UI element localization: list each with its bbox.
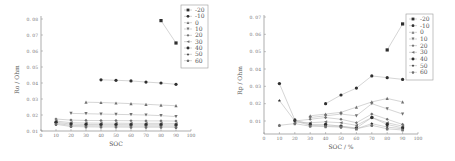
series-10 bbox=[69, 112, 177, 118]
x-tick-label: 40 bbox=[323, 136, 329, 141]
x-tick-label: 100 bbox=[414, 136, 423, 141]
legend-label: 60 bbox=[195, 57, 203, 64]
rp-chart-svg: 01020304050607080901000. 010. 020. 030. … bbox=[228, 0, 455, 161]
y-tick-label: 0. 05 bbox=[27, 65, 39, 70]
series-20 bbox=[54, 117, 177, 122]
x-tick-label: 100 bbox=[187, 133, 196, 138]
x-tick-label: 50 bbox=[113, 133, 119, 138]
series--10 bbox=[99, 78, 177, 86]
y-tick-label: 0. 02 bbox=[27, 113, 39, 118]
y-tick-label: 0. 05 bbox=[250, 49, 262, 54]
ro-chart-svg: 01020304050607080901000. 010. 020. 030. … bbox=[0, 0, 228, 161]
x-axis-title: SOC / % bbox=[328, 143, 353, 150]
series-0 bbox=[84, 101, 177, 108]
y-tick-label: 0. 06 bbox=[27, 49, 39, 54]
x-tick-label: 60 bbox=[128, 133, 134, 138]
x-axis-title: SOC bbox=[109, 140, 123, 147]
y-tick-label: 0. 04 bbox=[250, 67, 262, 72]
y-tick-label: 0. 07 bbox=[250, 15, 262, 20]
y-tick-label: 0. 03 bbox=[250, 84, 262, 89]
series--10 bbox=[324, 74, 404, 105]
y-tick-label: 0. 07 bbox=[27, 33, 39, 38]
series-10 bbox=[309, 102, 405, 119]
y-tick-label: 0. 08 bbox=[27, 17, 39, 22]
x-tick-label: 70 bbox=[369, 136, 375, 141]
x-tick-label: 20 bbox=[292, 136, 298, 141]
x-tick-label: 30 bbox=[83, 133, 89, 138]
y-tick-label: 0. 04 bbox=[27, 81, 39, 86]
y-tick-label: 0. 02 bbox=[250, 101, 262, 106]
x-tick-label: 50 bbox=[338, 136, 344, 141]
y-axis-title: Ro / Ohm bbox=[13, 65, 20, 94]
x-tick-label: 10 bbox=[53, 133, 59, 138]
legend: -20-100102030405060 bbox=[406, 14, 433, 80]
y-tick-label: 0. 01 bbox=[27, 129, 39, 134]
x-tick-label: 60 bbox=[354, 136, 360, 141]
ro-vs-soc-chart: 01020304050607080901000. 010. 020. 030. … bbox=[0, 0, 228, 161]
legend: -20-100102030405060 bbox=[181, 5, 208, 68]
series--20 bbox=[386, 22, 405, 51]
y-tick-label: 0. 01 bbox=[250, 119, 262, 124]
x-tick-label: 90 bbox=[173, 133, 179, 138]
y-axis-title: Rp / Ohm bbox=[236, 66, 244, 95]
x-tick-label: 30 bbox=[307, 136, 313, 141]
x-tick-label: 80 bbox=[158, 133, 164, 138]
x-tick-label: 70 bbox=[143, 133, 149, 138]
x-tick-label: 0 bbox=[40, 133, 43, 138]
y-tick-label: 0. 06 bbox=[250, 32, 262, 37]
x-tick-label: 20 bbox=[68, 133, 74, 138]
series--20 bbox=[159, 19, 177, 45]
x-tick-label: 40 bbox=[98, 133, 104, 138]
y-tick-label: 0. 03 bbox=[27, 97, 39, 102]
x-tick-label: 80 bbox=[384, 136, 390, 141]
x-tick-label: 10 bbox=[277, 136, 283, 141]
x-tick-label: 90 bbox=[400, 136, 406, 141]
x-tick-label: 0 bbox=[263, 136, 266, 141]
rp-vs-soc-chart: 01020304050607080901000. 010. 020. 030. … bbox=[228, 0, 455, 161]
legend-label: 60 bbox=[420, 68, 428, 75]
